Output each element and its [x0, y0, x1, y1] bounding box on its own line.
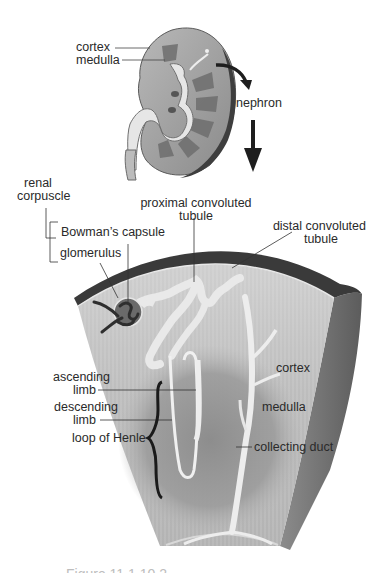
loop-of-henle-label: loop of Henle	[72, 431, 146, 445]
distal-tubule-label-line2: tubule	[262, 232, 338, 246]
kidney-medulla-label: medulla	[76, 53, 120, 67]
proximal-tubule-label-line2: tubule	[140, 209, 252, 223]
down-arrow-icon	[244, 120, 262, 172]
renal-corpuscle-bracket	[46, 208, 56, 238]
proximal-tubule-label-line1: proximal convoluted	[140, 196, 252, 210]
diagram-artwork	[0, 0, 384, 573]
section-medulla-label: medulla	[262, 400, 306, 414]
kidney-illustration	[125, 28, 236, 180]
descending-limb-label-line1: descending	[54, 400, 118, 414]
kidney-cortex-label: cortex	[76, 40, 110, 54]
figure-caption: Figure 11.1.10.2	[66, 566, 167, 573]
corpuscle-label: corpuscle	[17, 189, 71, 203]
nephron-label: nephron	[236, 96, 282, 110]
bowman-glomerulus-bracket	[50, 222, 58, 262]
kidney-nephron-diagram: cortex medulla nephron renal corpuscle B…	[0, 0, 384, 573]
descending-limb-label-line2: limb	[73, 413, 96, 427]
collecting-duct-label: collecting duct	[254, 440, 333, 454]
bowmans-capsule-label: Bowman’s capsule	[61, 225, 165, 239]
glomerulus-label: glomerulus	[60, 246, 121, 260]
ascending-limb-label-line2: limb	[73, 383, 96, 397]
section-cortex-label: cortex	[276, 361, 310, 375]
ascending-limb-label-line1: ascending	[40, 370, 110, 384]
distal-tubule-label-line1: distal convoluted	[262, 219, 366, 233]
renal-label: renal	[16, 176, 60, 190]
